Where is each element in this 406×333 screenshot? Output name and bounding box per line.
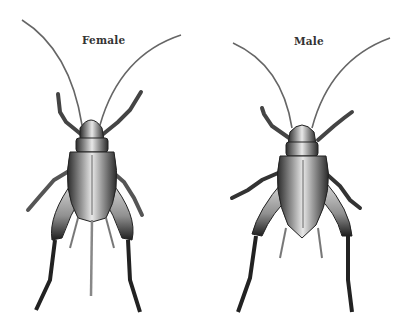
- illustration-canvas: Female Male: [0, 0, 406, 333]
- male-cricket: [232, 38, 390, 312]
- ovipositor: [91, 220, 92, 296]
- female-cricket: [22, 20, 181, 312]
- crickets-drawing: [0, 0, 406, 333]
